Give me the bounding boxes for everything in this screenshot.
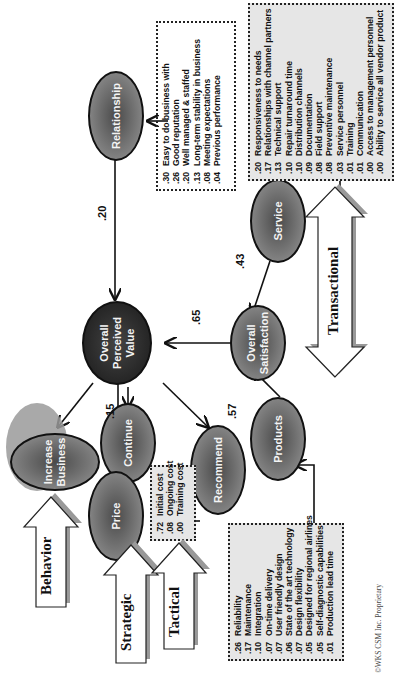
behavior-label: Behavior [38,537,55,595]
node-label: Continue [122,419,135,467]
factor-row: .20Well managed & staffed [181,28,191,184]
factor-row: .06State of the art technology [284,530,294,654]
factor-row: .08Ongoing cost [165,472,175,534]
factor-row: .26Good reputation [171,28,181,184]
factor-row: .00Training cost [175,472,185,534]
factor-row: .30Easy to do business with [161,28,171,184]
factor-row: .04Previous performance [212,28,222,184]
transactional-label: Transactional [325,247,342,335]
factor-row: .07Design flexibility [294,530,304,654]
factor-row: .00Ability to service all vendor product [375,10,385,174]
price-factors-box: .72Initial cost .08Ongoing cost .00Train… [150,465,196,541]
factor-row: .20Responsiveness to needs [253,10,263,174]
relationship-factors-box: .30Easy to do business with .26Good repu… [156,21,236,191]
factor-row: .17Maintenance [243,530,253,654]
factor-row: .01Training [345,10,355,174]
factor-row: .10Integration [253,530,263,654]
factor-row: .01Communication [355,10,365,174]
factor-row: .09Documentation [304,10,314,174]
node-overall-satisfaction: Overall Satisfaction [230,305,286,381]
node-relationship: Relationship [88,71,144,161]
node-label: Overall Perceived Value [98,303,137,383]
weight-service: .43 [234,254,246,269]
strategic-label: Strategic [118,594,135,651]
factor-row: .13Technical support [273,10,283,174]
weight-relationship: .20 [96,206,108,221]
factor-row: .03Service personnel [335,10,345,174]
node-label: Products [272,415,285,463]
service-factors-box: .20Responsiveness to needs .17Relationsh… [248,3,394,181]
copyright-footer: ©WKS CSM Inc. Proprietary [374,584,383,673]
weight-products: .57 [226,404,238,419]
node-label: Overall Satisfaction [245,307,271,379]
weight-price: .15 [104,404,116,419]
factor-row: .10Distribution channels [294,10,304,174]
node-recommend: Recommend [190,425,246,515]
factor-row: .10Repair turnaround time [284,10,294,174]
weight-satisfaction: .65 [190,310,202,325]
node-overall-perceived-value: Overall Perceived Value [82,301,152,385]
node-service: Service [250,179,306,263]
factor-row: .01Production lead time [325,530,335,654]
tactical-label: Tactical [166,587,183,637]
node-label: Relationship [110,83,123,149]
node-products: Products [250,397,306,481]
node-label: Service [272,201,285,240]
factor-row: .07User friendly design [274,530,284,654]
factor-row: .26Reliability [233,530,243,654]
node-label: Price [110,503,123,530]
product-factors-box: .26Reliability .17Maintenance .10Integra… [228,523,344,661]
factor-row: .72Initial cost [155,472,165,534]
factor-row: .05Designed for regional airlines [304,530,314,654]
node-increase-business: Increase Business [10,433,100,491]
node-label: Recommend [212,437,225,503]
factor-row: .05Self-diagnostic capabilities [315,530,325,654]
node-label: Increase Business [42,435,68,489]
factor-row: .08Meeting expectations [202,28,212,184]
factor-row: .07On-time delivery [264,530,274,654]
diagram-canvas: Increase Business Overall Perceived Valu… [0,0,397,681]
factor-row: .08Preventive maintenance [324,10,334,174]
factor-row: .00Access to management personnel [365,10,375,174]
factor-row: .13Long-term stability in business [192,28,202,184]
factor-row: .08Field support [314,10,324,174]
factor-row: .17Relationships with channel partners [263,10,273,174]
